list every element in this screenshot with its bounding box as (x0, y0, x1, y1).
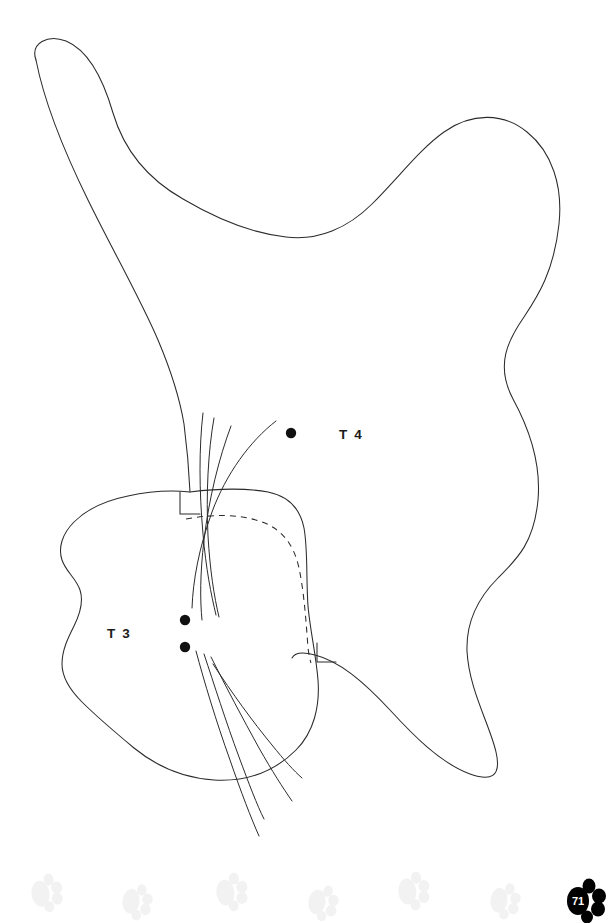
notch-top-marker (180, 492, 200, 514)
whisker-line (192, 421, 276, 608)
pattern-drawing: T 4 T 3 (0, 0, 611, 923)
t3-outline-path (61, 489, 319, 780)
page-number-paw-badge: 71 (567, 879, 606, 923)
pattern-page: T 4 T 3 (0, 0, 611, 923)
whisker-group-lower (196, 651, 302, 836)
paw-print-icon (29, 872, 66, 915)
whisker-line (207, 418, 219, 617)
paw-print-icon (214, 871, 249, 913)
paw-print-icon (488, 881, 522, 921)
whisker-line (196, 651, 259, 836)
t4-outline-left-path (36, 60, 190, 492)
footer-watermark-paws (29, 871, 522, 923)
t4-mark-dot (286, 428, 296, 438)
piece-label-t4: T 4 (339, 427, 363, 442)
whisker-line (201, 426, 231, 620)
piece-label-t3: T 3 (107, 626, 131, 641)
paw-print-icon (306, 883, 341, 923)
paw-print-icon (121, 882, 155, 922)
t4-outline-path (35, 39, 560, 778)
page-number-label: 71 (572, 895, 584, 907)
whisker-line (204, 654, 264, 819)
paw-print-icon (397, 871, 432, 912)
t3-mark-dot-lower (180, 642, 190, 652)
t3-mark-dot-upper (180, 615, 190, 625)
